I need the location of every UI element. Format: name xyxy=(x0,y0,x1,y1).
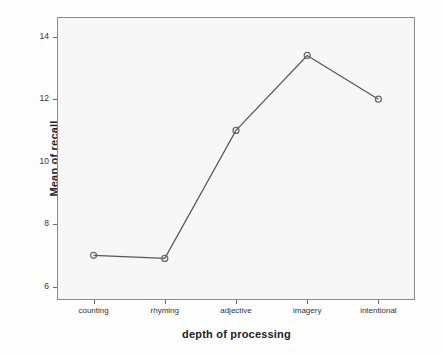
line-chart: Mean of recall 68101214 countingrhyminga… xyxy=(0,0,444,354)
x-tick-mark xyxy=(378,300,379,304)
y-tick-label: 8 xyxy=(27,218,49,228)
y-tick-label: 12 xyxy=(27,93,49,103)
x-tick-mark xyxy=(165,300,166,304)
x-tick-label: counting xyxy=(59,306,129,315)
y-tick-label: 10 xyxy=(27,156,49,166)
x-tick-label: imagery xyxy=(272,306,342,315)
y-tick-label: 6 xyxy=(27,281,49,291)
x-tick-label: intentional xyxy=(343,306,413,315)
x-tick-label: rhyming xyxy=(130,306,200,315)
data-markers xyxy=(91,52,382,261)
plot-area xyxy=(57,17,415,300)
data-line xyxy=(94,55,379,258)
plot-svg xyxy=(58,18,414,299)
x-tick-mark xyxy=(94,300,95,304)
x-tick-mark xyxy=(307,300,308,304)
x-tick-label: adjective xyxy=(201,306,271,315)
x-tick-mark xyxy=(236,300,237,304)
x-axis-title: depth of processing xyxy=(57,328,416,340)
y-tick-label: 14 xyxy=(27,31,49,41)
